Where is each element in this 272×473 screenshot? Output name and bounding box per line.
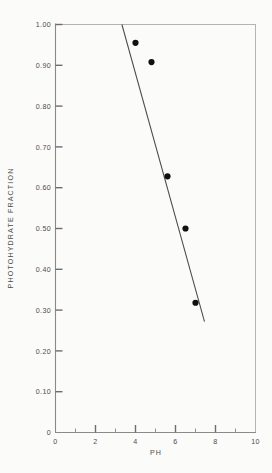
figure-panel: 00.100.200.300.400.500.600.700.800.901.0…: [0, 0, 272, 473]
y-axis-tick-label: 0.20: [36, 348, 51, 356]
x-axis-minor-tick-group: [76, 429, 236, 433]
data-point: [132, 40, 138, 46]
x-axis-tick-label: 8: [213, 438, 217, 446]
x-axis-title: PH: [150, 449, 162, 457]
y-axis-tick-label: 0.80: [36, 103, 51, 111]
y-axis-tick-label: 1.00: [36, 21, 51, 29]
y-axis-tick-label: 0.70: [36, 144, 51, 152]
y-axis-tick-label: 0.10: [36, 388, 51, 396]
y-axis-title: PHOTOHYDRATE FRACTION: [7, 168, 15, 289]
data-point: [164, 173, 170, 179]
x-axis-label-group: 0246810: [53, 438, 259, 446]
x-axis-tick-label: 6: [173, 438, 177, 446]
y-axis-tick-label: 0.90: [36, 62, 51, 70]
data-point: [148, 59, 154, 65]
y-axis: 00.100.200.300.400.500.600.700.800.901.0…: [36, 21, 63, 437]
y-axis-tick-label: 0.50: [36, 225, 51, 233]
x-axis-tick-label: 0: [53, 438, 57, 446]
plot-frame: [55, 25, 256, 433]
scatter-chart: 00.100.200.300.400.500.600.700.800.901.0…: [0, 0, 272, 473]
data-point: [182, 225, 188, 231]
y-axis-tick-label: 0.40: [36, 266, 51, 274]
x-axis-tick-label: 10: [251, 438, 260, 446]
y-axis-label-group: 00.100.200.300.400.500.600.700.800.901.0…: [36, 21, 51, 437]
trend-line: [122, 25, 205, 322]
y-axis-tick-group: [56, 25, 63, 392]
y-axis-tick-label: 0.30: [36, 307, 51, 315]
y-axis-tick-label: 0: [47, 429, 51, 437]
x-axis: 0246810: [53, 425, 259, 446]
x-axis-tick-label: 4: [133, 438, 137, 446]
trend-line-group: [122, 25, 205, 322]
y-axis-tick-label: 0.60: [36, 184, 51, 192]
x-axis-tick-label: 2: [93, 438, 97, 446]
data-point: [192, 300, 198, 306]
